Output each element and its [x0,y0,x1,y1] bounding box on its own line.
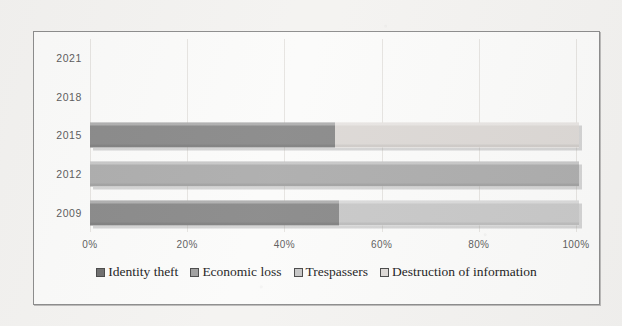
chart-frame: 2021 2018 2015 2012 2009 0% [33,31,600,305]
x-tick-label-20: 20% [177,239,198,250]
x-tick-label-100: 100% [562,239,589,250]
x-tick-label-80: 80% [468,239,489,250]
x-tick-label-40: 40% [274,239,295,250]
category-row-2021: 2021 [90,39,579,78]
legend-item-identity-theft[interactable]: Identity theft [96,264,178,280]
legend-label-identity-theft: Identity theft [108,264,178,280]
bar-segment-2015-identity-theft[interactable] [90,123,335,148]
y-tick-label-2018: 2018 [56,91,82,103]
x-tick-label-60: 60% [371,239,392,250]
legend-item-economic-loss[interactable]: Economic loss [190,264,281,280]
bar-2009[interactable] [90,200,579,225]
y-tick-label-2015: 2015 [56,129,82,141]
x-axis: 0% 20% 40% 60% 80% 100% [90,239,579,257]
category-row-2009: 2009 [90,193,579,232]
category-row-2018: 2018 [90,78,579,117]
bar-segment-2009-trespassers[interactable] [339,200,579,225]
legend-item-destruction-of-information[interactable]: Destruction of information [380,264,537,280]
legend-label-trespassers: Trespassers [306,264,369,280]
y-tick-label-2009: 2009 [56,207,82,219]
category-row-2015: 2015 [90,116,579,155]
legend-swatch-icon-destruction-of-information [380,268,389,277]
bar-segment-2012-economic-loss[interactable] [90,162,579,187]
y-tick-label-2012: 2012 [56,168,82,180]
bar-segment-2009-identity-theft[interactable] [90,200,339,225]
bar-2015[interactable] [90,123,579,148]
plot-area: 2021 2018 2015 2012 2009 [90,39,579,232]
legend-item-trespassers[interactable]: Trespassers [294,264,369,280]
category-row-2012: 2012 [90,155,579,194]
bar-2012[interactable] [90,162,579,187]
chart-legend: Identity theft Economic loss Trespassers… [34,264,599,280]
legend-label-destruction-of-information: Destruction of information [392,264,537,280]
legend-label-economic-loss: Economic loss [202,264,281,280]
legend-swatch-icon-economic-loss [190,268,199,277]
bar-segment-2015-destruction-of-information[interactable] [335,123,580,148]
x-tick-label-0: 0% [82,239,97,250]
legend-swatch-icon-identity-theft [96,268,105,277]
y-tick-label-2021: 2021 [56,52,82,64]
legend-swatch-icon-trespassers [294,268,303,277]
